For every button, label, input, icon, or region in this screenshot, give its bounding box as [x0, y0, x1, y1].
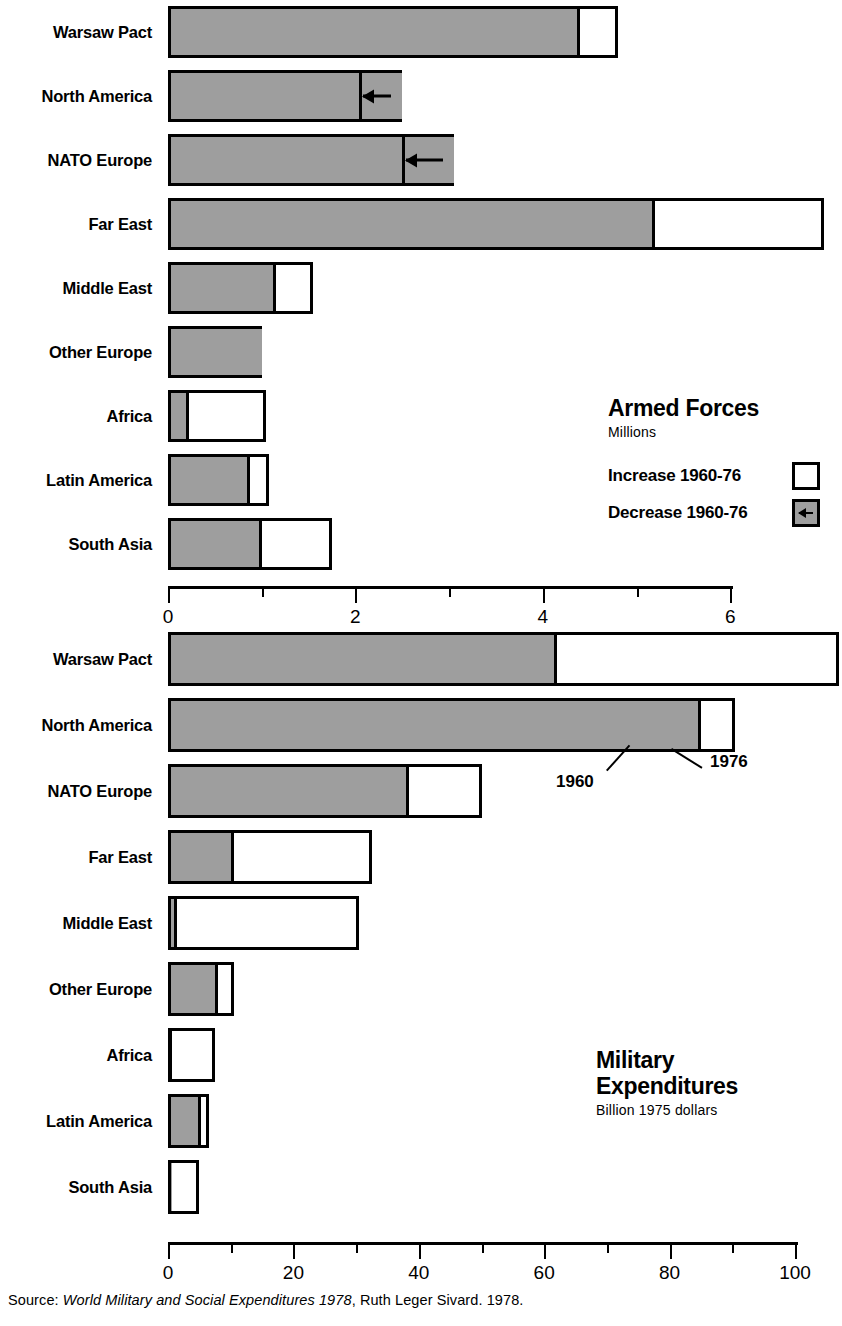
axis-tick — [262, 586, 264, 597]
bar-row: Warsaw Pact — [0, 6, 842, 70]
bar-row-label: Warsaw Pact — [0, 24, 152, 41]
axis-tick — [355, 586, 357, 603]
bar — [168, 962, 234, 1016]
segment-divider — [247, 457, 250, 503]
axis-tick — [168, 1242, 170, 1259]
bar-row: NATO Europe — [0, 764, 842, 830]
bar — [168, 830, 372, 884]
bar — [168, 6, 618, 58]
bar-row-label: Africa — [0, 408, 152, 425]
bar-row: South Asia — [0, 1160, 842, 1226]
segment-1960-gray — [171, 9, 580, 55]
segment-divider — [174, 899, 177, 947]
bar-outline — [168, 764, 482, 818]
bar-outline — [168, 198, 824, 250]
bar-outline — [168, 632, 839, 686]
bar-row-label: North America — [0, 717, 152, 734]
source-title: World Military and Social Expenditures 1… — [63, 1292, 352, 1308]
bar-row-label: NATO Europe — [0, 783, 152, 800]
bar-outline — [168, 518, 332, 570]
bar-outline — [168, 70, 402, 122]
axis-tick — [482, 1242, 484, 1253]
segment-divider — [406, 767, 409, 815]
bar-row-label: South Asia — [0, 536, 152, 553]
segment-divider — [652, 201, 655, 247]
axis-tick — [607, 1242, 609, 1253]
bar-outline — [168, 6, 618, 58]
segment-1960-gray — [171, 635, 557, 683]
decrease-arrow-icon — [406, 159, 443, 162]
annotation-1960: 1960 — [556, 772, 594, 792]
axis-tick-label: 6 — [725, 606, 736, 628]
axis-tick-label: 20 — [283, 1262, 304, 1284]
segment-divider — [577, 9, 580, 55]
military-expenditures-legend: Military Expenditures Billion 1975 dolla… — [596, 1048, 738, 1118]
legend-title: Armed Forces — [608, 396, 820, 422]
segment-1960-gray — [171, 1097, 201, 1145]
bar — [168, 134, 454, 186]
segment-1960-gray — [171, 329, 262, 375]
segment-1960-gray — [171, 201, 655, 247]
source-prefix: Source: — [8, 1292, 59, 1308]
segment-divider — [198, 1097, 201, 1145]
bar — [168, 198, 824, 250]
bar-row: Other Europe — [0, 326, 842, 390]
bar-row-label: NATO Europe — [0, 152, 152, 169]
bar — [168, 896, 359, 950]
axis-tick — [730, 586, 732, 603]
bar — [168, 454, 269, 506]
bar-outline — [168, 1160, 199, 1214]
segment-1960-gray — [171, 521, 262, 567]
axis-tick — [670, 1242, 672, 1259]
segment-divider — [168, 1163, 171, 1211]
bar-row: NATO Europe — [0, 134, 842, 198]
bar-outline — [168, 262, 313, 314]
bar-outline — [168, 962, 234, 1016]
bar-row-label: Latin America — [0, 1113, 152, 1130]
axis-tick — [732, 1242, 734, 1253]
axis-tick — [293, 1242, 295, 1259]
segment-1960-gray — [171, 457, 250, 503]
bar-row: Far East — [0, 198, 842, 262]
left-arrow-icon — [799, 512, 813, 514]
bar-row-label: Far East — [0, 849, 152, 866]
axis-tick — [419, 1242, 421, 1259]
bar-outline — [168, 830, 372, 884]
axis-tick-label: 0 — [163, 606, 174, 628]
legend-swatch-increase-white — [792, 462, 820, 490]
bar — [168, 764, 482, 818]
source-suffix: , Ruth Leger Sivard. 1978. — [352, 1292, 524, 1308]
annotation-1976: 1976 — [710, 752, 748, 772]
segment-divider — [215, 965, 218, 1013]
axis-tick-label: 60 — [534, 1262, 555, 1284]
legend-title-line1: Military — [596, 1048, 738, 1074]
axis-tick-label: 2 — [350, 606, 361, 628]
bar-row: South Asia — [0, 518, 842, 582]
legend-swatch-decrease-gray — [792, 499, 820, 527]
axis-tick — [356, 1242, 358, 1253]
axis-tick-label: 0 — [163, 1262, 174, 1284]
armed-forces-chart: Warsaw PactNorth AmericaNATO EuropeFar E… — [0, 0, 842, 630]
bar-row-label: Far East — [0, 216, 152, 233]
segment-divider — [554, 635, 557, 683]
bar-row: Warsaw Pact — [0, 632, 842, 698]
axis-tick — [449, 586, 451, 597]
segment-1960-gray — [171, 701, 701, 749]
segment-divider — [169, 1031, 172, 1079]
military-expenditures-chart: Warsaw PactNorth AmericaNATO EuropeFar E… — [0, 630, 842, 1290]
segment-divider — [259, 521, 262, 567]
bar-outline — [168, 1094, 209, 1148]
legend-row-decrease: Decrease 1960-76 — [608, 499, 820, 527]
segment-1960-gray — [171, 767, 409, 815]
bar-row-label: South Asia — [0, 1179, 152, 1196]
bar — [168, 1028, 215, 1082]
bar-row-label: North America — [0, 88, 152, 105]
axis-tick-label: 40 — [408, 1262, 429, 1284]
armed-forces-legend: Armed Forces Millions Increase 1960-76 D… — [608, 396, 820, 527]
source-note: Source: World Military and Social Expend… — [8, 1292, 524, 1308]
bar-row-label: Middle East — [0, 915, 152, 932]
legend-label-decrease: Decrease 1960-76 — [608, 503, 786, 523]
bar-outline — [168, 896, 359, 950]
bar — [168, 632, 839, 686]
bar-row-label: Other Europe — [0, 981, 152, 998]
